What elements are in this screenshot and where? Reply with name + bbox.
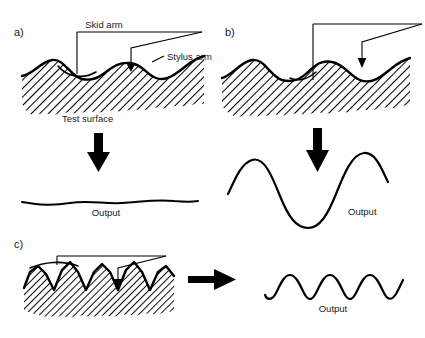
skid-arm-label: Skid arm	[85, 19, 123, 30]
stylus-arm-label: Stylus arm	[167, 51, 212, 62]
panel-b-output-label: Output	[348, 206, 377, 217]
panel-c: c) Output	[14, 238, 403, 317]
panel-b-down-arrow	[306, 128, 329, 172]
panel-c-output-label: Output	[319, 303, 348, 314]
panel-b-stylus-arrowhead	[358, 58, 367, 68]
panel-a-surface-fill	[22, 56, 204, 115]
panel-a-stylus-pointer	[152, 56, 164, 62]
panel-c-surface-fill	[24, 262, 174, 317]
diagram-canvas: a) Skid arm Stylus arm Test surface	[0, 0, 425, 338]
panel-b-surface-fill	[222, 58, 410, 117]
panel-a-output-trace	[22, 200, 198, 204]
panel-b-label: b)	[225, 26, 235, 38]
panel-c-label: c)	[14, 238, 23, 250]
panel-b: b) Output	[222, 24, 422, 228]
panel-a-label: a)	[14, 26, 24, 38]
figure-root: a) Skid arm Stylus arm Test surface	[0, 0, 425, 338]
panel-a: a) Skid arm Stylus arm Test surface	[14, 19, 212, 218]
panel-a-output-label: Output	[92, 207, 121, 218]
panel-c-right-arrow	[188, 269, 236, 290]
panel-b-stylus-leader	[362, 24, 422, 62]
test-surface-label: Test surface	[62, 113, 113, 124]
panel-c-output-trace	[265, 275, 403, 299]
panel-a-down-arrow	[87, 133, 110, 172]
